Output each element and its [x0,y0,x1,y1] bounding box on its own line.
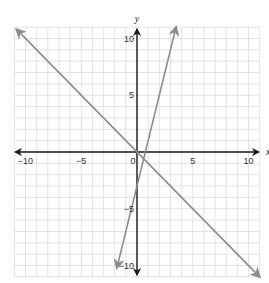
tick-x-neg5: −5 [76,156,86,166]
tick-x-neg10: −10 [18,156,33,166]
tick-y-10: 10 [124,34,134,44]
tick-x-10: 10 [243,156,253,166]
coordinate-plane: −10−50510105−5−10xy [0,0,269,283]
tick-x-5: 5 [190,156,195,166]
tick-y-neg5: −5 [124,204,134,214]
plot-line-1 [17,29,260,276]
tick-y-neg10: −10 [119,261,134,271]
tick-y-5: 5 [129,90,134,100]
y-axis-label: y [134,13,140,24]
tick-origin: 0 [130,156,135,166]
x-axis-label: x [265,146,269,157]
